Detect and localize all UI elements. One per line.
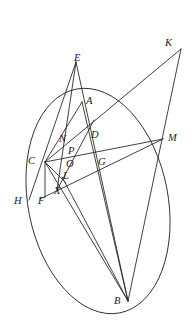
point-label-o: O xyxy=(66,159,74,170)
line-l-b xyxy=(62,177,128,301)
point-label-b: B xyxy=(114,296,120,307)
point-label-h: H xyxy=(14,196,22,207)
point-label-p: P xyxy=(68,146,74,157)
point-label-e: E xyxy=(74,53,80,64)
point-label-x: X xyxy=(54,186,60,197)
point-label-l: L xyxy=(63,171,69,182)
line-a-b xyxy=(82,102,128,301)
point-label-c: C xyxy=(28,156,35,167)
point-label-d: D xyxy=(91,130,99,141)
point-label-n: N xyxy=(59,134,66,145)
point-label-m: M xyxy=(168,133,177,144)
figure-canvas xyxy=(0,0,194,334)
line-e-b xyxy=(76,62,128,301)
geometry-figure: E K A D M N P C O G L X F H B xyxy=(0,0,194,334)
point-label-g: G xyxy=(98,157,106,168)
point-label-f: F xyxy=(38,196,44,207)
point-label-k: K xyxy=(165,38,172,49)
conic-ellipse xyxy=(8,76,189,327)
point-label-a: A xyxy=(86,96,92,107)
line-group xyxy=(29,49,181,301)
